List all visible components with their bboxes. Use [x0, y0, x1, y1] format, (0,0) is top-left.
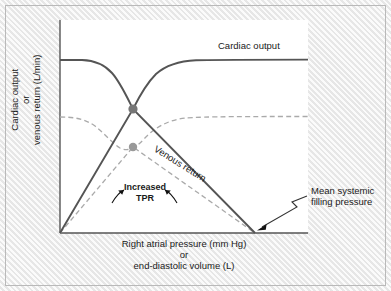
increased-tpr-annotation: Increased TPR: [114, 182, 176, 203]
msfp-line1: Mean systemic: [311, 185, 374, 196]
x-axis-label: Right atrial pressure (mm Hg) or end-dia…: [60, 238, 308, 272]
msfp-line2: filling pressure: [311, 196, 374, 207]
increased-tpr-line1: Increased: [114, 182, 176, 193]
figure-container: Cardiac output or venous return (L/min) …: [0, 0, 391, 291]
y-axis-label-line2: or: [20, 30, 31, 170]
x-axis-label-line2: or: [60, 249, 308, 260]
mean-systemic-filling-pressure-annotation: Mean systemic filling pressure: [311, 185, 374, 207]
cardiac-output-curve-label: Cardiac output: [218, 40, 280, 51]
operating-point-markers: [128, 104, 137, 151]
operating-point-increased-tpr-dot: [129, 143, 137, 151]
curve-cardiac-output-normal: [60, 60, 308, 109]
msfp-leader-arrow: [257, 196, 307, 231]
x-axis-label-line3: end-diastolic volume (L): [60, 260, 308, 271]
y-axis-label-line3: venous return (L/min): [32, 30, 43, 170]
increased-tpr-line2: TPR: [114, 193, 176, 204]
y-axis-label: Cardiac output or venous return (L/min): [9, 30, 43, 170]
y-axis-label-line1: Cardiac output: [9, 30, 20, 170]
curve-cardiac-output-increased-tpr: [60, 117, 308, 150]
axis-lines: [60, 20, 308, 233]
x-axis-label-line1: Right atrial pressure (mm Hg): [60, 238, 308, 249]
operating-point-normal-dot: [128, 104, 137, 113]
msfp-arrowhead: [257, 224, 267, 230]
